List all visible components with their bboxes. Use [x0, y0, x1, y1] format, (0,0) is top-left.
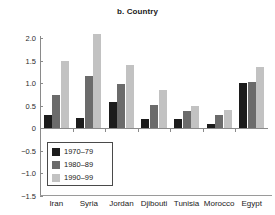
bar [141, 119, 149, 128]
bar [224, 110, 232, 128]
bar [174, 119, 182, 128]
y-tick-label: 1.5 [0, 56, 36, 65]
bar [61, 61, 69, 128]
bar [117, 84, 125, 128]
category-tick [170, 128, 171, 132]
country-bar-chart: b. Country 2.01.51.00.50−0.5−1.0−1.5 Ira… [0, 0, 275, 215]
bar [183, 111, 191, 128]
category-tick [203, 128, 204, 132]
bar [109, 102, 117, 128]
y-tick-label: 0.5 [0, 101, 36, 110]
legend-label: 1980–89 [64, 160, 93, 169]
bar [126, 65, 134, 128]
bar [191, 106, 199, 128]
category-label: Egypt [241, 199, 261, 208]
bar [150, 105, 158, 128]
category-label: Djibouti [141, 199, 168, 208]
y-tick-label: −1.0 [0, 169, 36, 178]
bar [239, 83, 247, 128]
bar [159, 90, 167, 128]
bar [52, 95, 60, 128]
category-tick [105, 128, 106, 132]
y-tick-label: −0.5 [0, 146, 36, 155]
bar [248, 82, 256, 128]
legend-swatch [52, 148, 60, 156]
legend-label: 1990–99 [64, 173, 93, 182]
legend-label: 1970–79 [64, 147, 93, 156]
legend-swatch [52, 161, 60, 169]
y-tick-label: −1.5 [0, 191, 36, 200]
category-label: Iran [49, 199, 63, 208]
chart-title: b. Country [0, 7, 275, 16]
y-tick-label: 1.0 [0, 79, 36, 88]
legend: 1970–791980–891990–99 [47, 142, 113, 186]
y-tick-label: 0 [0, 124, 36, 133]
y-tick-label: 2.0 [0, 34, 36, 43]
category-label: Tunisia [174, 199, 200, 208]
bar [76, 118, 84, 128]
bar [93, 34, 101, 128]
category-label: Syria [80, 199, 98, 208]
legend-swatch [52, 174, 60, 182]
bar [215, 115, 223, 128]
category-label: Morocco [204, 199, 235, 208]
category-tick [73, 128, 74, 132]
bar [207, 124, 215, 129]
category-tick [235, 128, 236, 132]
bar [256, 67, 264, 128]
bar [44, 115, 52, 129]
bar [85, 76, 93, 128]
category-tick [138, 128, 139, 132]
category-label: Jordan [109, 199, 133, 208]
